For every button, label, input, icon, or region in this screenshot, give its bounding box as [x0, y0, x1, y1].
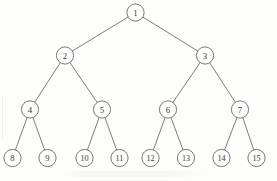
tree-edge-layer — [15, 17, 253, 150]
tree-edge-6-13 — [171, 118, 183, 150]
tree-diagram-canvas: 123456789101112131415 — [0, 0, 277, 181]
tree-edge-2-4 — [35, 63, 61, 103]
tree-edge-1-2 — [72, 17, 128, 51]
tree-node-label-2: 2 — [63, 51, 67, 61]
tree-node-12[interactable]: 12 — [142, 149, 159, 166]
binary-tree-figure: 123456789101112131415 — [0, 0, 277, 181]
tree-edge-2-5 — [70, 63, 97, 103]
tree-node-8[interactable]: 8 — [4, 149, 21, 166]
tree-node-label-5: 5 — [100, 105, 105, 115]
tree-node-label-10: 10 — [80, 154, 88, 163]
scan-artifact-left-streak — [2, 96, 3, 138]
tree-edge-1-3 — [143, 17, 198, 51]
tree-node-label-13: 13 — [182, 154, 190, 163]
tree-node-label-14: 14 — [217, 154, 225, 163]
tree-node-1[interactable]: 1 — [127, 4, 144, 21]
tree-node-13[interactable]: 13 — [177, 149, 194, 166]
tree-edge-7-15 — [243, 118, 254, 150]
tree-node-2[interactable]: 2 — [56, 47, 73, 64]
tree-edge-3-6 — [173, 63, 200, 103]
tree-node-label-6: 6 — [166, 105, 171, 115]
tree-edge-5-11 — [105, 118, 117, 150]
tree-node-4[interactable]: 4 — [21, 101, 38, 118]
tree-node-label-3: 3 — [203, 51, 208, 61]
tree-node-label-12: 12 — [146, 154, 154, 163]
tree-node-label-9: 9 — [45, 153, 50, 163]
tree-node-label-4: 4 — [28, 105, 33, 115]
tree-node-11[interactable]: 11 — [111, 149, 128, 166]
tree-edge-5-10 — [87, 118, 99, 150]
tree-node-6[interactable]: 6 — [159, 101, 176, 118]
tree-edge-4-9 — [33, 118, 45, 150]
tree-node-label-11: 11 — [116, 154, 124, 163]
tree-node-14[interactable]: 14 — [213, 149, 230, 166]
tree-node-label-1: 1 — [133, 8, 137, 18]
tree-node-layer: 123456789101112131415 — [4, 4, 265, 167]
tree-node-label-15: 15 — [252, 154, 260, 163]
tree-node-label-7: 7 — [238, 105, 243, 115]
tree-node-10[interactable]: 10 — [76, 149, 93, 166]
tree-edge-4-8 — [15, 118, 27, 150]
tree-node-label-8: 8 — [10, 153, 15, 163]
scan-artifact-bottom-smudge — [62, 171, 212, 177]
tree-node-7[interactable]: 7 — [231, 101, 248, 118]
tree-node-15[interactable]: 15 — [248, 149, 265, 166]
tree-edge-7-14 — [225, 118, 237, 150]
tree-edge-3-7 — [210, 63, 236, 103]
tree-node-9[interactable]: 9 — [39, 149, 56, 166]
tree-node-5[interactable]: 5 — [93, 101, 110, 118]
tree-edge-6-12 — [153, 118, 165, 150]
tree-node-3[interactable]: 3 — [196, 47, 213, 64]
